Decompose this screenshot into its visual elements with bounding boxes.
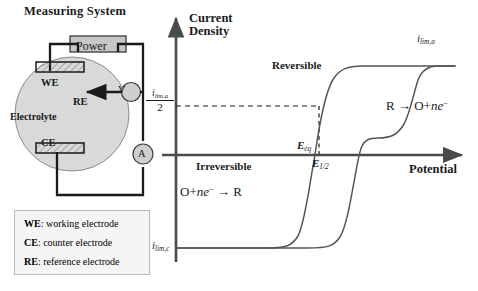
ce-electrode-label: CE [41, 137, 56, 148]
marker-e-half: E1/2 [312, 158, 329, 172]
reaction-cathodic-minus: − [209, 184, 214, 194]
reaction-cathodic-arrow: → [217, 184, 230, 199]
reaction-cathodic-R: R [233, 184, 242, 199]
reaction-anodic-arrow: → [398, 98, 411, 113]
electrode-legend-box: WE: working electrode CE: counter electr… [14, 210, 150, 275]
legend-item-ce: CE: counter electrode [24, 237, 112, 248]
legend-item-re: RE: reference electrode [24, 256, 120, 267]
plot-axes [162, 18, 462, 262]
voltmeter-label: V [118, 84, 126, 95]
legend-abbr-re: RE [24, 256, 38, 267]
marker-ilim-cathodic: ilim,c [152, 240, 169, 254]
marker-ilim-anodic: ilim,a [417, 33, 435, 47]
legend-abbr-ce: CE [24, 237, 38, 248]
reaction-anodic: R → O+ne− [386, 99, 448, 113]
reaction-anodic-minus: − [443, 98, 448, 108]
marker-e-eq-sub: eq [304, 145, 311, 153]
y-axis-title-line2: Density [189, 24, 229, 38]
figure-root: Measuring System Power V A WE RE CE Elec… [0, 0, 478, 291]
legend-desc-re: : reference electrode [38, 256, 120, 267]
marker-ilim-cathodic-sub: lim,c [155, 245, 169, 253]
y-axis-title: Current Density [189, 12, 233, 38]
reaction-cathodic-ne: ne [197, 184, 209, 199]
reaction-anodic-R: R [386, 98, 395, 113]
reaction-anodic-O: O [414, 98, 423, 113]
ammeter-label: A [138, 148, 146, 159]
marker-half-ilim-denominator: 2 [146, 101, 174, 114]
power-supply-label: Power [76, 40, 107, 53]
curve-label-irreversible: Irreversible [196, 161, 251, 173]
marker-e-half-sub: 1/2 [319, 163, 328, 171]
reaction-anodic-ne: ne [431, 98, 443, 113]
reaction-cathodic-O: O [180, 184, 189, 199]
curve-label-reversible: Reversible [272, 60, 321, 72]
legend-item-we: WE: working electrode [24, 218, 118, 229]
marker-e-eq: Eeq [297, 140, 311, 154]
reaction-cathodic: O+ne− → R [180, 185, 242, 199]
we-electrode-label: WE [41, 77, 59, 88]
re-electrode-label: RE [73, 96, 88, 107]
legend-desc-ce: : counter electrode [38, 237, 112, 248]
marker-half-ilim-sub: lim,a [155, 92, 168, 99]
x-axis-title: Potential [409, 163, 457, 176]
marker-ilim-anodic-sub: lim,a [420, 38, 435, 46]
marker-half-ilim-numerator: ilim,a [146, 88, 174, 101]
legend-desc-we: : working electrode [41, 218, 119, 229]
y-axis-title-line1: Current [189, 11, 233, 25]
marker-half-ilim-anodic: ilim,a 2 [146, 88, 174, 113]
working-electrode [36, 62, 84, 72]
reaction-cathodic-plus: + [189, 184, 196, 199]
reaction-anodic-plus: + [424, 98, 431, 113]
electrolyte-label: Electrolyte [10, 112, 56, 123]
legend-abbr-we: WE [24, 218, 41, 229]
measuring-system-title: Measuring System [24, 5, 126, 18]
